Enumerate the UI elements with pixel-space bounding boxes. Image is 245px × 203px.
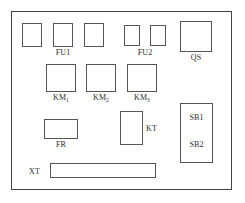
isolator-switch-qs	[180, 21, 212, 52]
terminal-block-xt	[50, 163, 156, 178]
contactor-km3-label: KM3	[122, 93, 162, 103]
contactor-km3-label-sub: 3	[147, 97, 150, 103]
isolator-switch-qs-label: QS	[176, 53, 216, 62]
push-button-station-sb	[180, 103, 213, 163]
thermal-relay-fr	[44, 119, 78, 139]
thermal-relay-fr-label: FR	[41, 140, 81, 149]
terminal-block-xt-label: XT	[29, 167, 40, 176]
time-relay-kt-label: KT	[146, 124, 157, 133]
contactor-km3	[127, 64, 157, 92]
fuse-box-fu1-2	[53, 23, 73, 47]
contactor-km3-label-main: KM	[134, 93, 147, 102]
contactor-km2	[86, 64, 116, 92]
push-button-sb2-label: SB2	[180, 140, 213, 149]
contactor-km2-label-main: KM	[93, 93, 106, 102]
panel-layout-diagram: FU1 FU2 QS KM1 KM2 KM3 FR KT SB1 SB2 XT	[0, 0, 245, 203]
contactor-km1-label-sub: 1	[66, 97, 69, 103]
contactor-km1	[46, 64, 76, 92]
fuse-box-fu1-1	[22, 23, 42, 47]
fuse-box-fu2-2	[150, 25, 166, 46]
fuse-box-fu1-3	[84, 23, 104, 47]
fuse-box-fu2-1	[124, 25, 140, 46]
contactor-km1-label: KM1	[41, 93, 81, 103]
contactor-km2-label-sub: 2	[106, 97, 109, 103]
contactor-km2-label: KM2	[81, 93, 121, 103]
time-relay-kt	[120, 111, 143, 145]
fuse-group-fu1-label: FU1	[43, 48, 83, 57]
fuse-group-fu2-label: FU2	[125, 48, 165, 57]
contactor-km1-label-main: KM	[53, 93, 66, 102]
push-button-sb1-label: SB1	[180, 113, 213, 122]
